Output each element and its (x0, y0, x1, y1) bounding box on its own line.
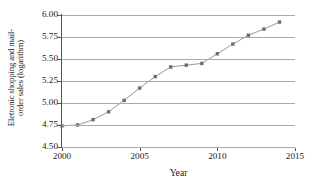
data-point-marker (216, 52, 219, 55)
data-point-marker (185, 63, 188, 66)
data-point-marker (169, 65, 172, 68)
data-point-marker (278, 20, 281, 23)
gridline-y (62, 125, 295, 126)
x-axis-label: Year (62, 168, 295, 178)
y-tick-mark (57, 147, 61, 148)
y-tick-mark (57, 37, 61, 38)
gridline-y (62, 103, 295, 104)
gridline-y (62, 15, 295, 16)
data-point-marker (200, 62, 203, 65)
data-point-marker (262, 27, 265, 30)
gridline-y (62, 81, 295, 82)
data-point-marker (107, 110, 110, 113)
gridline-y (62, 37, 295, 38)
plot-area (62, 15, 295, 147)
chart-figure: Eletronic shopping and mail- order sales… (0, 0, 312, 187)
y-tick-mark (57, 125, 61, 126)
y-tick-label: 5.50 (42, 54, 58, 63)
y-tick-label: 5.25 (42, 76, 58, 85)
gridline-y (62, 59, 295, 60)
data-point-marker (91, 118, 94, 121)
x-tick-label: 2000 (53, 152, 71, 161)
y-tick-label: 5.00 (42, 98, 58, 107)
data-point-marker (138, 86, 141, 89)
data-point-marker (154, 75, 157, 78)
data-point-marker (231, 42, 234, 45)
y-tick-mark (57, 81, 61, 82)
x-tick-label: 2015 (286, 152, 304, 161)
y-tick-mark (57, 103, 61, 104)
data-point-marker (122, 99, 125, 102)
y-tick-label: 4.75 (42, 120, 58, 129)
gridline-y (62, 147, 295, 148)
x-tick-label: 2010 (208, 152, 226, 161)
y-tick-label: 6.00 (42, 10, 58, 19)
x-tick-label: 2005 (130, 152, 148, 161)
y-tick-mark (57, 59, 61, 60)
y-tick-label: 5.75 (42, 32, 58, 41)
y-axis-label-line-2: order sales (logarithm) (16, 40, 25, 116)
y-axis-tick-labels: 4.504.755.005.255.505.756.00 (28, 0, 61, 160)
y-tick-mark (57, 15, 61, 16)
